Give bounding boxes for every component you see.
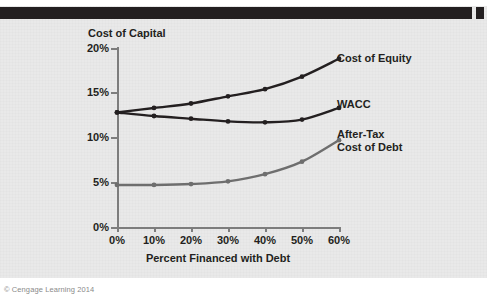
data-point <box>226 94 231 99</box>
data-point <box>152 183 157 188</box>
data-point <box>263 87 268 92</box>
chart-plot <box>0 0 495 301</box>
series-label-line2: Cost of Debt <box>337 141 402 153</box>
data-point <box>226 179 231 184</box>
data-point <box>263 172 268 177</box>
data-point <box>152 106 157 111</box>
right-margin <box>487 0 495 301</box>
data-point <box>300 117 305 122</box>
data-point <box>189 182 194 187</box>
data-point <box>152 114 157 119</box>
data-point <box>189 116 194 121</box>
series-label-cost-of-equity: Cost of Equity <box>337 52 412 65</box>
figure-page: Cost of Capital 20% 15% 10% 5% 0% 0% 10%… <box>0 0 495 301</box>
data-point <box>189 101 194 106</box>
series-label-line1: After-Tax <box>337 128 384 140</box>
data-point <box>300 74 305 79</box>
series-label-after-tax-cost-of-debt: After-TaxCost of Debt <box>337 128 402 154</box>
series-label-wacc: WACC <box>337 98 371 111</box>
copyright-credit: © Cengage Learning 2014 <box>4 285 94 294</box>
data-point <box>115 110 120 115</box>
series-cost-of-equity <box>115 56 342 115</box>
series-after-tax-cost-of-debt <box>115 138 342 188</box>
series-line <box>117 140 339 185</box>
series-line <box>117 59 339 113</box>
data-point <box>115 183 120 188</box>
data-point <box>263 120 268 125</box>
data-point <box>300 159 305 164</box>
data-point <box>226 119 231 124</box>
